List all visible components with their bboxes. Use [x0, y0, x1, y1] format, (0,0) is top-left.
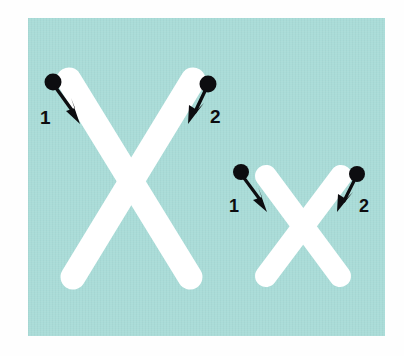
uppercase-x-arrow-1-start-dot — [45, 74, 62, 91]
uppercase-x-stroke-1-number: 1 — [40, 107, 51, 128]
uppercase-x-letter — [69, 80, 193, 277]
letter-artwork: 1 2 1 2 — [0, 0, 404, 356]
diagram-stage: 1 2 1 2 — [0, 0, 404, 356]
uppercase-x-arrow-2-start-dot — [200, 76, 217, 93]
uppercase-x-stroke-2-number: 2 — [210, 106, 221, 127]
lowercase-x-stroke-1-number: 1 — [229, 196, 239, 216]
lowercase-x-stroke-2-number: 2 — [359, 196, 369, 216]
lowercase-x-arrow-2-start-dot — [349, 166, 365, 182]
lowercase-x-arrow-1-start-dot — [233, 164, 249, 180]
lowercase-x-arrow-2-head — [337, 192, 353, 212]
lowercase-x-letter — [266, 176, 341, 276]
